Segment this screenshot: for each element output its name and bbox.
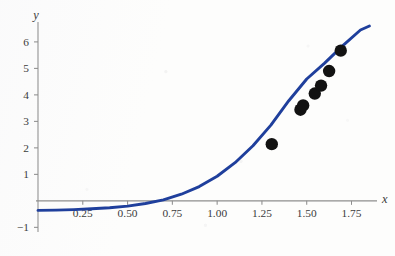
fitted-curve (38, 26, 369, 210)
y-tick-label: −1 (17, 221, 29, 233)
x-tick-label: 0.50 (118, 207, 138, 219)
data-point (323, 65, 335, 77)
axes-group (36, 22, 377, 232)
x-tick-label: 1.50 (297, 207, 317, 219)
curve-group (38, 26, 369, 210)
y-axis-name: y (31, 8, 39, 22)
ticks-group (34, 42, 352, 227)
data-point (315, 79, 327, 91)
y-tick-label: 3 (23, 115, 29, 127)
x-tick-label: 0.75 (162, 207, 182, 219)
figure-container: 0.250.500.751.001.251.501.75−1123456 xy (0, 0, 395, 256)
x-tick-label: 1.00 (207, 207, 227, 219)
y-tick-label: 6 (23, 36, 29, 48)
plot-svg: 0.250.500.751.001.251.501.75−1123456 xy (0, 0, 395, 256)
x-axis-name: x (381, 192, 388, 206)
y-tick-label: 4 (23, 89, 29, 101)
y-tick-label: 2 (23, 142, 29, 154)
x-tick-label: 1.25 (252, 207, 272, 219)
axis-names-group: xy (31, 8, 388, 206)
data-points-group (266, 44, 347, 150)
data-point (335, 44, 347, 56)
y-tick-label: 5 (23, 62, 29, 74)
x-tick-label: 1.75 (342, 207, 362, 219)
data-point (266, 138, 278, 150)
y-tick-label: 1 (23, 168, 29, 180)
data-point (297, 99, 309, 111)
tick-labels-group: 0.250.500.751.001.251.501.75−1123456 (17, 36, 362, 233)
